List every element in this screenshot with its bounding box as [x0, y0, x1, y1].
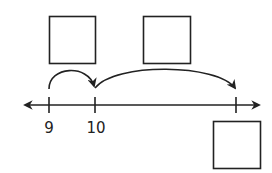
answer-box-3[interactable]	[214, 122, 261, 169]
answer-box-2[interactable]	[144, 17, 191, 64]
answer-box-1[interactable]	[50, 17, 96, 64]
tick-label-10: 10	[86, 119, 105, 137]
number-line-diagram: 9 10	[0, 0, 272, 173]
jump-arc-2	[95, 69, 235, 88]
jump-arc-1	[49, 71, 94, 89]
tick-label-9: 9	[44, 119, 54, 137]
